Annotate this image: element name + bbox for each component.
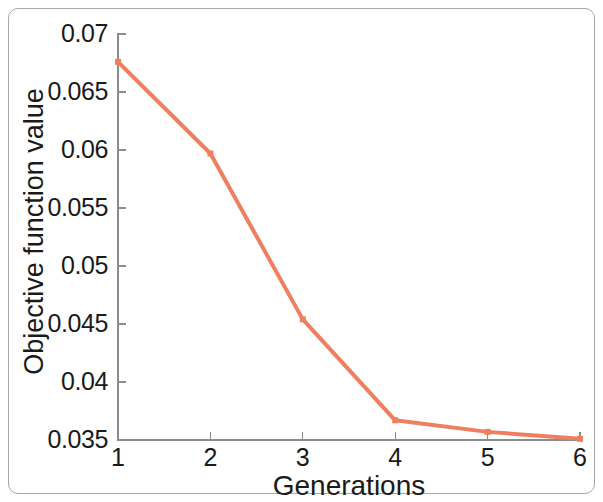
series-markers bbox=[115, 59, 583, 442]
series-marker bbox=[115, 59, 121, 65]
series-marker bbox=[485, 429, 491, 435]
series-marker bbox=[577, 436, 583, 442]
series-marker bbox=[392, 417, 398, 423]
series-line-objective bbox=[118, 62, 580, 439]
series-marker bbox=[300, 316, 306, 322]
series-layer bbox=[0, 0, 603, 502]
line-chart: 0.0350.040.0450.050.0550.060.0650.07 123… bbox=[0, 0, 603, 502]
series-marker bbox=[207, 150, 213, 156]
